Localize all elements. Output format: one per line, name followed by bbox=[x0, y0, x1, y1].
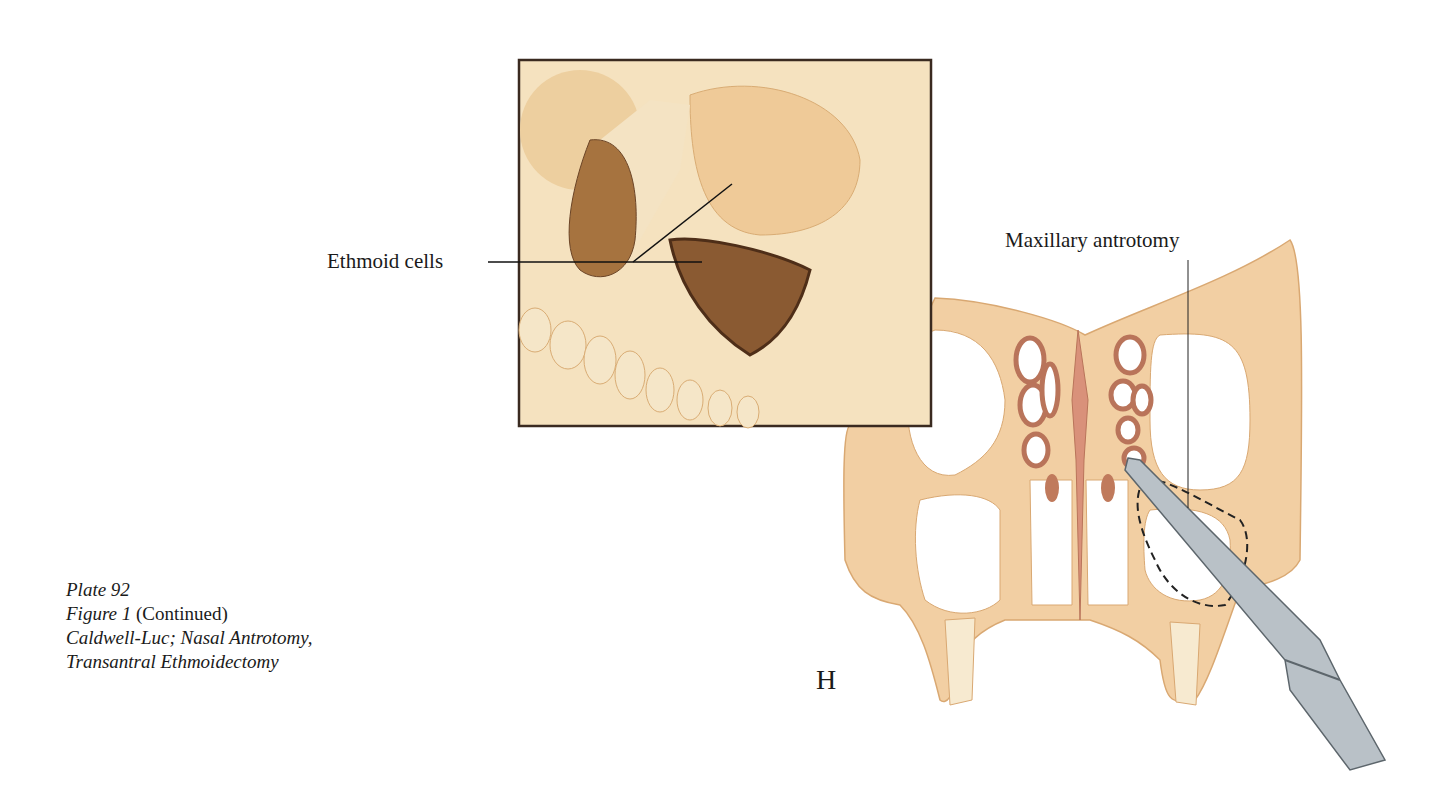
maxillary-antrotomy-label: Maxillary antrotomy bbox=[1005, 228, 1179, 253]
left-maxillary-sinus bbox=[915, 495, 1000, 613]
plate-number: Plate 92 bbox=[66, 578, 312, 602]
right-orbit bbox=[1150, 334, 1250, 490]
panel-letter: H bbox=[816, 664, 836, 696]
caption-title-line2: Transantral Ethmoidectomy bbox=[66, 650, 312, 674]
right-middle-turbinate bbox=[1101, 474, 1115, 502]
inset-skull-view bbox=[488, 60, 931, 428]
figure-suffix: (Continued) bbox=[131, 603, 228, 624]
left-tooth bbox=[945, 618, 975, 705]
ethmoid-cells-label: Ethmoid cells bbox=[327, 249, 443, 274]
figure-number: Figure 1 bbox=[66, 603, 131, 624]
figure-caption: Plate 92 Figure 1 (Continued) Caldwell-L… bbox=[66, 578, 312, 674]
figure-line: Figure 1 (Continued) bbox=[66, 602, 312, 626]
caption-title-line1: Caldwell-Luc; Nasal Antrotomy, bbox=[66, 626, 312, 650]
left-middle-turbinate bbox=[1045, 474, 1059, 502]
